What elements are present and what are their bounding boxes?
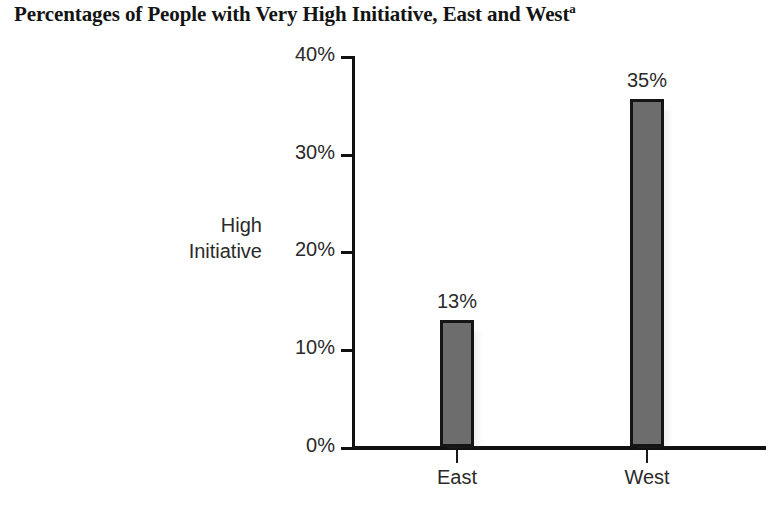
y-tick-label-30: 30% xyxy=(265,141,335,164)
y-tick-label-wrap-20: 20% xyxy=(265,251,335,252)
y-tick-40 xyxy=(341,56,353,59)
bar-value-east: 13% xyxy=(407,290,507,313)
y-axis-title-line-1: High xyxy=(140,212,262,238)
y-tick-20 xyxy=(341,251,353,254)
y-tick-10 xyxy=(341,349,353,352)
x-axis-label-west: West xyxy=(597,466,697,489)
y-axis-title: High Initiative xyxy=(140,212,262,264)
x-tick-west xyxy=(646,450,648,463)
y-tick-label-0: 0% xyxy=(265,434,335,457)
bar-west[interactable] xyxy=(630,99,664,447)
chart-page: Percentages of People with Very High Ini… xyxy=(0,0,772,509)
x-tick-east xyxy=(456,450,458,463)
y-tick-label-wrap-30: 30% xyxy=(265,154,335,155)
y-tick-label-10: 10% xyxy=(265,336,335,359)
y-tick-30 xyxy=(341,154,353,157)
bar-east[interactable] xyxy=(440,320,474,447)
x-axis-label-east: East xyxy=(407,466,507,489)
plot-area: 0% 10% 20% 30% 40% High Initiative 13% 3… xyxy=(0,0,772,509)
y-tick-label-20: 20% xyxy=(265,238,335,261)
y-tick-label-wrap-0: 0% xyxy=(265,447,335,448)
y-tick-0 xyxy=(341,447,353,450)
y-tick-label-40: 40% xyxy=(265,43,335,66)
bar-value-west: 35% xyxy=(597,69,697,92)
y-tick-label-wrap-10: 10% xyxy=(265,349,335,350)
y-axis-title-line-2: Initiative xyxy=(140,238,262,264)
y-tick-label-wrap-40: 40% xyxy=(265,56,335,57)
x-axis-line xyxy=(352,446,766,450)
